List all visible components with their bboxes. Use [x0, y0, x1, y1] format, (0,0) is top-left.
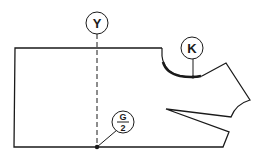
k-marker-label: K	[187, 41, 197, 56]
g-marker-denominator: 2	[120, 123, 125, 133]
pattern-diagram: Y K G 2	[0, 0, 262, 160]
g-point-dot	[95, 145, 99, 149]
pattern-outline	[14, 48, 250, 147]
neckline-highlight	[163, 62, 201, 77]
g-marker-numerator: G	[119, 112, 126, 122]
y-marker-label: Y	[93, 16, 102, 31]
g-leader-line	[97, 130, 117, 147]
k-point-dot	[191, 75, 194, 78]
